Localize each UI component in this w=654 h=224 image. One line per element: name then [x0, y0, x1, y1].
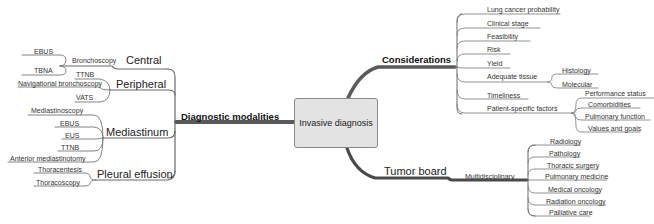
- discipline-thoracic-surgery: Thoracic surgery: [547, 162, 599, 169]
- consideration-timeliness: Timeliness: [487, 92, 520, 99]
- leaf-central-tbna: TBNA: [34, 67, 53, 74]
- leaf-peripheral-ttnb: TTNB: [76, 71, 94, 78]
- spine-diagnostic-modalities: [168, 69, 175, 178]
- consideration-lung-cancer-probability: Lung cancer probability: [487, 6, 559, 13]
- consideration-risk: Risk: [487, 46, 501, 53]
- consideration-yield: Yield: [487, 60, 502, 67]
- node-bronchoscopy: Bronchoscopy: [72, 57, 116, 64]
- branch-label-diagnostic-modalities: Diagnostic modalities: [181, 112, 279, 122]
- discipline-radiology: Radiology: [550, 138, 581, 145]
- leaf-peripheral-vats: VATS: [76, 94, 93, 101]
- node-mediastinum: Mediastinum: [106, 127, 168, 138]
- leaf-peripheral-navigational-bronchoscopy: Navigational bronchoscopy: [18, 80, 102, 87]
- node-pleural-effusion: Pleural effusion: [97, 169, 173, 180]
- leaf-mediastinum-ebus: EBUS: [60, 120, 79, 127]
- node-central: Central: [126, 55, 161, 66]
- consideration-clinical-stage: Clinical stage: [487, 20, 529, 27]
- branch-label-tumor-board: Tumor board: [384, 166, 447, 177]
- patient-performance-status: Performance status: [585, 90, 646, 97]
- discipline-palliative-care: Palliative care: [549, 209, 593, 216]
- patient-comorbidities: Comorbidities: [588, 101, 631, 108]
- consideration-adequate-tissue: Adequate tissue: [487, 73, 537, 80]
- leaf-mediastinum-mediastinoscopy: Mediastinoscopy: [31, 107, 83, 114]
- trunk-considerations: [348, 67, 455, 98]
- discipline-pathology: Pathology: [549, 150, 580, 157]
- patient-values-and-goals: Values and goals: [588, 125, 641, 132]
- discipline-pulmonary-medicine: Pulmonary medicine: [545, 173, 608, 180]
- discipline-medical-oncology: Medical oncology: [548, 186, 602, 193]
- node-multidisciplinary: Multidisciplinary: [465, 173, 514, 180]
- patient-pulmonary-function: Pulmonary function: [585, 113, 645, 120]
- leaf-mediastinum-eus: EUS: [65, 132, 79, 139]
- leaf-mediastinum-ttnb: TTNB: [61, 144, 79, 151]
- leaf-mediastinum-anterior-mediastinotomy: Anterior mediastinotomy: [10, 155, 85, 162]
- node-peripheral: Peripheral: [116, 79, 166, 90]
- leaf-pleural-thoracentesis: Thoracentesis: [38, 166, 82, 173]
- tissue-molecular: Molecular: [562, 81, 592, 88]
- tissue-histology: Histology: [562, 67, 591, 74]
- branch-label-considerations: Considerations: [382, 55, 451, 65]
- consideration-feasibility: Feasibility: [487, 33, 518, 40]
- discipline-radiation-oncology: Radiation oncology: [546, 198, 606, 205]
- leaf-central-ebus: EBUS: [34, 48, 53, 55]
- center-node-label: Invasive diagnosis: [299, 118, 373, 128]
- center-node-invasive-diagnosis: Invasive diagnosis: [294, 98, 378, 148]
- consideration-patient-specific-factors: Patient-specific factors: [487, 105, 557, 112]
- leaf-pleural-thoracoscopy: Thoracoscopy: [36, 179, 80, 186]
